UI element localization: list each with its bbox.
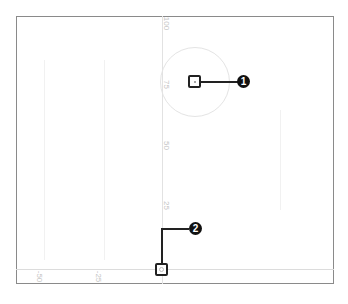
callout-leader-2-vertical: [161, 228, 163, 264]
x-axis: [16, 269, 334, 270]
callout-badge-2: 2: [189, 222, 202, 235]
callout-badge-1: 1: [237, 75, 250, 88]
x-tick-label: -50: [35, 271, 44, 283]
point-dot-icon: [194, 81, 196, 83]
point-marker: [188, 75, 201, 88]
y-tick-label: 100: [162, 17, 171, 30]
y-tick-label: 50: [162, 141, 171, 150]
grid-line: [44, 60, 45, 260]
origin-marker: [155, 263, 168, 276]
y-tick-label: 25: [162, 201, 171, 210]
grid-line: [280, 110, 281, 210]
callout-leader-2-horizontal: [161, 228, 189, 230]
origin-ring-icon: [159, 267, 164, 272]
x-tick-label: -25: [94, 271, 103, 283]
callout-leader-1: [201, 81, 238, 83]
grid-line: [104, 60, 105, 260]
